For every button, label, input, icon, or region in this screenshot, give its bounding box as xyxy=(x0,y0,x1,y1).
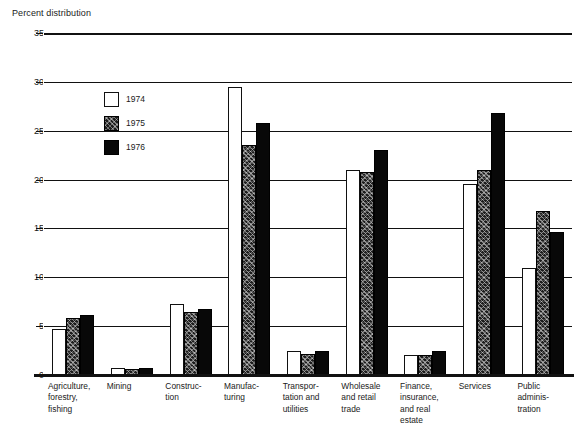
chart-page: Percent distribution 35302520151050 1974… xyxy=(0,0,582,448)
category-label-line: forestry, xyxy=(48,392,101,403)
bar-group xyxy=(220,33,279,375)
bar-1975 xyxy=(536,211,550,375)
category-label-line: and real xyxy=(400,404,453,415)
legend-swatch-1975 xyxy=(104,116,119,131)
category-label-line: utilities xyxy=(283,404,336,415)
y-tick-mark-15 xyxy=(36,228,43,229)
y-tick-mark-10 xyxy=(36,277,43,278)
category-label-line: Public xyxy=(517,381,570,392)
legend-item-1976: 1976 xyxy=(104,136,214,158)
category-label: Finance,insurance,and realestate xyxy=(396,381,455,427)
category-label-line: tation and xyxy=(283,392,336,403)
y-tick-mark-5 xyxy=(36,326,43,327)
bar-1974 xyxy=(463,184,477,375)
bar-group xyxy=(396,33,455,375)
y-tick-mark-35 xyxy=(36,33,43,34)
bar-1974 xyxy=(170,304,184,375)
bar-1975 xyxy=(242,145,256,375)
legend-label-1975: 1975 xyxy=(126,119,145,128)
bar-1975 xyxy=(184,312,198,376)
bar-1976 xyxy=(315,351,329,375)
bar-group xyxy=(337,33,396,375)
category-label: Agriculture,forestry,fishing xyxy=(44,381,103,427)
bar-1976 xyxy=(374,150,388,375)
category-label-line: tion xyxy=(165,392,218,403)
category-label: Construc-tion xyxy=(161,381,220,427)
y-tick-mark-20 xyxy=(36,180,43,181)
category-label: Publicadminis-tration xyxy=(513,381,572,427)
bar-group xyxy=(103,33,162,375)
chart-legend: 197419751976 xyxy=(104,88,214,160)
bar-1975 xyxy=(66,318,80,375)
category-label: Manufac-turing xyxy=(220,381,279,427)
category-label-line: Construc- xyxy=(165,381,218,392)
bar-1974 xyxy=(346,170,360,375)
bar-1976 xyxy=(491,113,505,375)
bar-1974 xyxy=(522,268,536,375)
category-label-line: fishing xyxy=(48,404,101,415)
category-label-line: Manufac- xyxy=(224,381,277,392)
legend-swatch-1976 xyxy=(104,140,119,155)
category-label: Services xyxy=(455,381,514,427)
category-label-line: Mining xyxy=(107,381,160,392)
legend-label-1974: 1974 xyxy=(126,95,145,104)
x-axis-baseline xyxy=(34,374,574,377)
bar-group xyxy=(513,33,572,375)
y-tick-mark-25 xyxy=(36,131,43,132)
bar-group xyxy=(161,33,220,375)
category-label-line: Finance, xyxy=(400,381,453,392)
category-label-line: insurance, xyxy=(400,392,453,403)
bar-1976 xyxy=(432,351,446,375)
bar-group xyxy=(279,33,338,375)
y-axis-labels: 35302520151050 xyxy=(0,0,44,448)
legend-label-1976: 1976 xyxy=(126,143,145,152)
bar-groups xyxy=(44,33,572,375)
y-axis-line xyxy=(43,33,44,375)
bar-1975 xyxy=(301,354,315,375)
bar-group xyxy=(44,33,103,375)
category-label-line: Wholesale xyxy=(341,381,394,392)
bar-1974 xyxy=(52,329,66,375)
category-label-line: Agriculture, xyxy=(48,381,101,392)
category-label-line: Transpor- xyxy=(283,381,336,392)
category-label-line: tration xyxy=(517,404,570,415)
bar-1976 xyxy=(256,123,270,375)
legend-swatch-1974 xyxy=(104,92,119,107)
bar-1976 xyxy=(550,232,564,375)
y-tick-mark-30 xyxy=(36,82,43,83)
bar-1976 xyxy=(198,309,212,375)
category-label-line: Services xyxy=(459,381,512,392)
bar-1975 xyxy=(477,170,491,375)
category-label-line: turing xyxy=(224,392,277,403)
bar-1975 xyxy=(360,172,374,375)
category-label-line: estate xyxy=(400,415,453,426)
category-label: Transpor-tation andutilities xyxy=(279,381,338,427)
bar-1974 xyxy=(404,355,418,375)
category-label: Mining xyxy=(103,381,162,427)
legend-item-1974: 1974 xyxy=(104,88,214,110)
bar-1976 xyxy=(80,315,94,375)
bar-group xyxy=(455,33,514,375)
category-label-line: trade xyxy=(341,404,394,415)
bar-1975 xyxy=(418,355,432,375)
category-label-line: and retail xyxy=(341,392,394,403)
bar-1974 xyxy=(287,351,301,375)
bar-1974 xyxy=(228,87,242,375)
category-label-line: adminis- xyxy=(517,392,570,403)
category-labels: Agriculture,forestry,fishingMiningConstr… xyxy=(44,381,572,427)
category-label: Wholesaleand retailtrade xyxy=(337,381,396,427)
legend-item-1975: 1975 xyxy=(104,112,214,134)
